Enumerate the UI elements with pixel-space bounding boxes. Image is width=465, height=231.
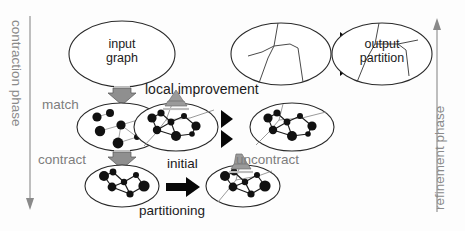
contract-label: contract: [38, 152, 86, 167]
partitioned-graph-ellipse: [231, 23, 331, 85]
input-graph-label-line1: input: [82, 37, 162, 51]
contracted-graph-ellipse: [85, 165, 159, 207]
match-label: match: [42, 97, 79, 112]
input-graph-label-line2: graph: [82, 51, 162, 65]
improved-partition-ellipse: [134, 103, 218, 151]
local-improvement-arrow-lower: [221, 110, 233, 148]
initial-partitioning-arrow: [166, 177, 200, 197]
uncontracted-partition-ellipse: [250, 103, 334, 151]
match-arrow: [108, 87, 136, 105]
contraction-phase-label: contraction phase: [9, 20, 24, 127]
contraction-phase-axis: [26, 16, 34, 210]
partitioning-label: partitioning: [139, 203, 205, 218]
output-partition-label-line1: output: [337, 37, 427, 51]
initial-label: initial: [167, 156, 198, 171]
output-partition-label: output partition: [337, 37, 427, 65]
figure-canvas: input graph output partition match contr…: [0, 0, 465, 231]
refinement-phase-label: refinement phase: [432, 106, 447, 210]
uncontract-label: uncontract: [236, 152, 299, 167]
output-partition-label-line2: partition: [337, 51, 427, 65]
local-improvement-label: local improvement: [145, 81, 259, 97]
diagram-svg: [0, 0, 465, 231]
input-graph-label: input graph: [82, 37, 162, 65]
